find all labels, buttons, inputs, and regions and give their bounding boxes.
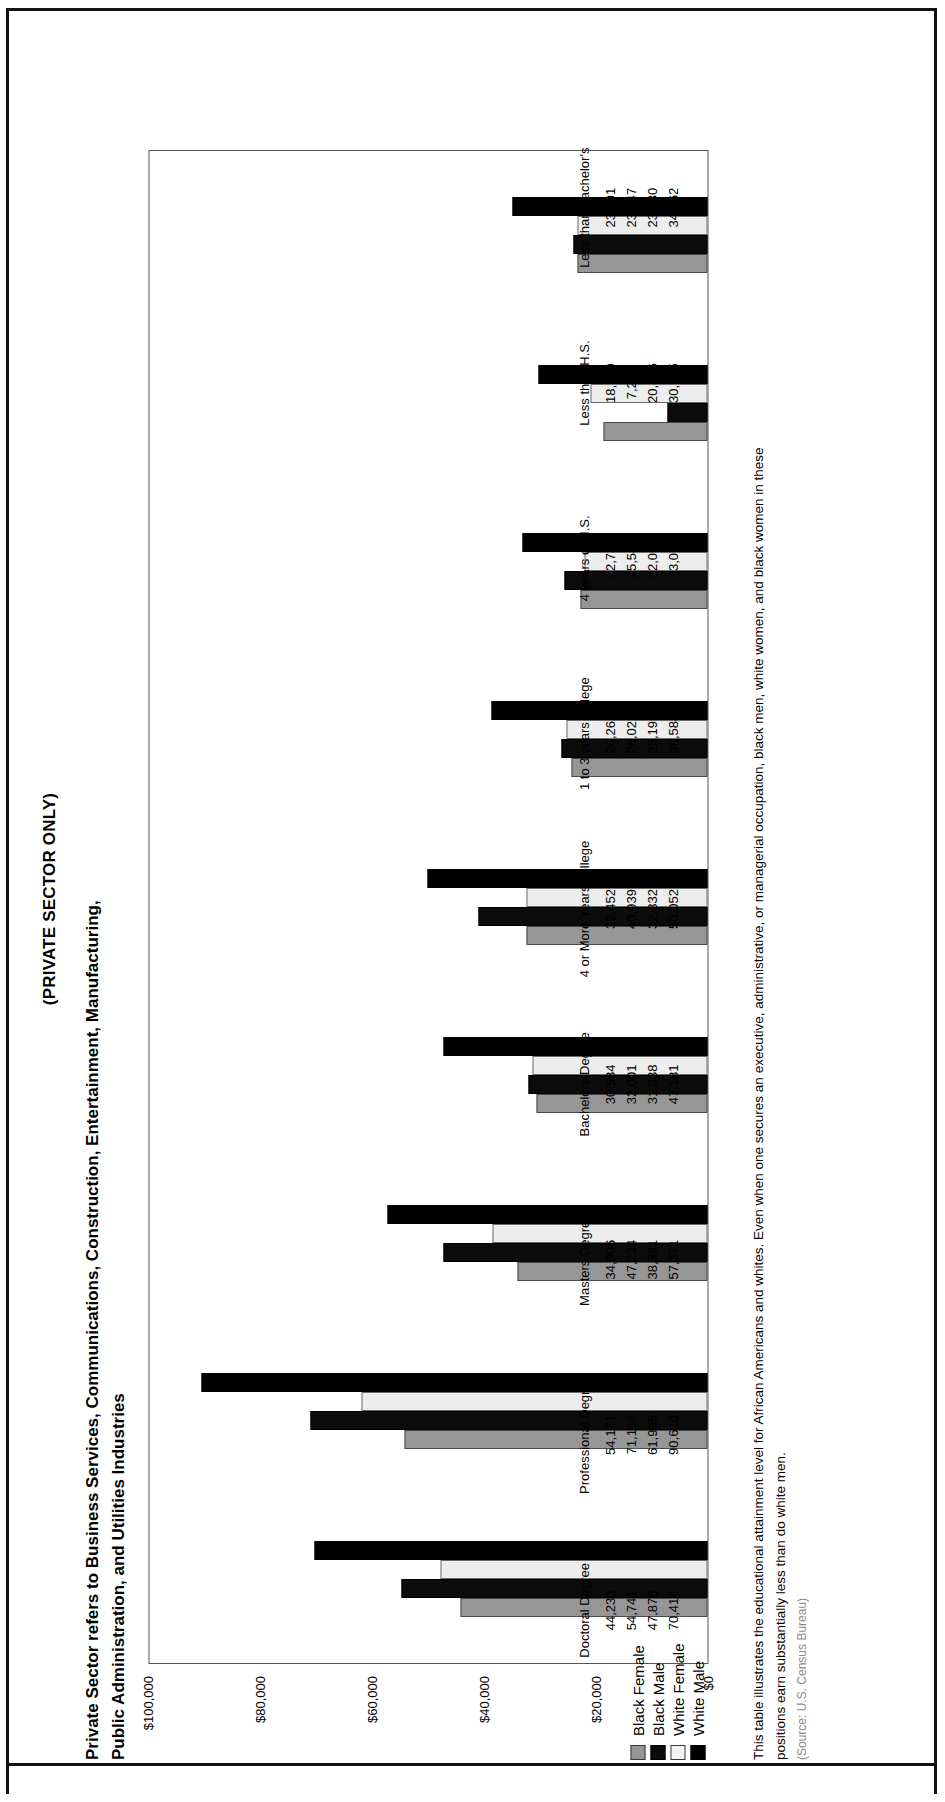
y-axis-tick: $60,000 [364,1676,379,1723]
table-header-row: Doctoral DegreeProfessional DegreeMaster… [573,120,599,1698]
legend-label: White Male [689,1661,706,1736]
value-cell: 22,732 [599,471,620,646]
value-cell: 50,052 [662,821,683,996]
poster-sheet: (PRIVATE SECTOR ONLY) Private Sector ref… [7,8,938,1794]
value-cell: 24,262 [599,646,620,821]
poster-title-line2: Public Administration, and Utilities Ind… [105,38,131,1760]
value-cell: 34,862 [662,120,683,295]
category-label: Professional Degree [573,1347,599,1522]
value-cell: 38,588 [662,646,683,821]
category-label: 4 or More Years college [573,821,599,996]
value-cell: 47,234 [620,1172,641,1347]
legend-label: Black Male [649,1663,666,1736]
category-label: Less than H.S. [573,295,599,470]
value-cell: 44,230 [599,1523,620,1698]
value-cell: 32,001 [620,997,641,1172]
poster-page: (PRIVATE SECTOR ONLY) Private Sector ref… [0,0,945,1802]
legend-swatch-icon [630,1745,645,1760]
y-axis-tick: $100,000 [140,1676,155,1730]
value-table: Doctoral DegreeProfessional DegreeMaster… [573,120,683,1698]
chart-legend: Black FemaleBlack MaleWhite FemaleWhite … [629,1643,709,1760]
value-cell: 20,876 [641,295,662,470]
legend-label: White Female [669,1643,686,1736]
footnote: This table illustrates the educational a… [747,38,811,1760]
legend-swatch-icon [650,1745,665,1760]
value-cell: 34,006 [599,1172,620,1347]
value-cell: 23,230 [641,120,662,295]
value-cell: 54,171 [599,1347,620,1522]
poster-title: Private Sector refers to Business Servic… [79,38,132,1760]
legend-item: Black Male [649,1643,666,1760]
value-cell: 22,015 [641,471,662,646]
rotated-poster-content: (PRIVATE SECTOR ONLY) Private Sector ref… [7,8,938,1794]
value-cell: 32,452 [599,821,620,996]
footnote-line2: positions earn substantially less than d… [769,38,791,1760]
footnote-source: (Source: U.S. Census Bureau) [792,38,812,1760]
value-cell: 23,947 [620,120,641,295]
category-label: Masters Degree [573,1172,599,1347]
value-cell: 30,275 [662,295,683,470]
value-cell: 38,391 [641,1172,662,1347]
table-row: 70,41490,61057,37147,18150,05238,58833,0… [662,120,683,1698]
value-cell: 26,027 [620,646,641,821]
legend-item: Black Female [629,1643,646,1760]
value-cell: 30,584 [599,997,620,1172]
poster-subtitle: (PRIVATE SECTOR ONLY) [39,38,59,1760]
table-row: 54,74171,11447,23432,00140,93926,02725,5… [620,120,641,1698]
value-cell: 32,332 [641,821,662,996]
poster-title-line1: Private Sector refers to Business Servic… [82,900,101,1760]
category-label: 1 to 3 years college [573,646,599,821]
category-label: 4 years of H.S. [573,471,599,646]
category-label: Bachelors Degree [573,997,599,1172]
y-axis-tick: $80,000 [252,1676,267,1723]
value-cell: 18,629 [599,295,620,470]
value-cell: 33,074 [662,471,683,646]
value-cell: 25,195 [641,646,662,821]
legend-item: White Male [689,1643,706,1760]
value-cell: 47,181 [662,997,683,1172]
footnote-line1: This table illustrates the educational a… [747,38,769,1760]
value-cell: 31,338 [641,997,662,1172]
value-cell: 23,291 [599,120,620,295]
value-cell: 25,534 [620,471,641,646]
value-cell: 71,114 [620,1347,641,1522]
value-cell: 61,995 [641,1347,662,1522]
value-cell: 7,203 [620,295,641,470]
legend-swatch-icon [670,1745,685,1760]
value-cell: 40,939 [620,821,641,996]
value-cell: 57,371 [662,1172,683,1347]
table-row: 47,87661,99538,39131,33832,33225,19522,0… [641,120,662,1698]
category-label: Less than Bachelor's [573,120,599,295]
legend-label: Black Female [629,1645,646,1736]
y-axis-tick: $40,000 [476,1676,491,1723]
table-row: 44,23054,17134,00630,58432,45224,26222,7… [599,120,620,1698]
legend-swatch-icon [690,1745,705,1760]
value-cell: 90,610 [662,1347,683,1522]
legend-item: White Female [669,1643,686,1760]
category-label: Doctoral Degree [573,1523,599,1698]
